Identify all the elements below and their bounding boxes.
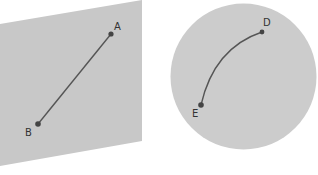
sphere-surface [171,4,317,150]
sphere-figure: D E [171,4,317,150]
point-a [108,31,113,36]
diagram-canvas: A B D E [0,0,318,175]
label-a: A [114,21,121,32]
label-d: D [263,17,271,28]
flat-plane-figure: A B [0,0,142,166]
point-b [35,121,41,127]
label-e: E [192,108,198,119]
point-e [198,102,204,108]
point-d [260,30,265,35]
label-b: B [25,127,32,138]
